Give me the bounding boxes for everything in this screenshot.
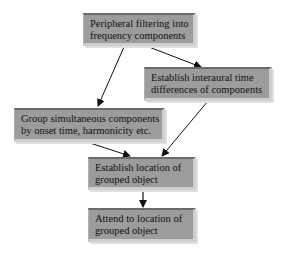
node-text-line: Establish location of [95, 162, 193, 174]
node-text-line: by onset time, harmonicity etc. [21, 125, 162, 137]
node-text-line: Attend to location of [95, 213, 193, 225]
arrow-n1-to-n2 [149, 47, 201, 67]
node-establish-location: Establish location of grouped object [88, 157, 196, 190]
node-interaural-time: Establish interaural time differences of… [144, 67, 272, 101]
node-group-simultaneous: Group simultaneous components by onset t… [14, 108, 165, 142]
node-text-line: Establish interaural time [151, 72, 269, 84]
arrow-n3-to-n4 [90, 143, 130, 156]
node-text-line: grouped object [95, 174, 193, 186]
node-peripheral-filtering: Peripheral filtering into frequency comp… [83, 13, 196, 46]
node-text-line: Peripheral filtering into [90, 18, 193, 30]
node-text-line: grouped object [95, 225, 193, 237]
node-attend-location: Attend to location of grouped object [88, 208, 196, 242]
node-text-line: differences of components [151, 84, 269, 96]
node-text-line: Group simultaneous components [21, 113, 162, 125]
node-text-line: frequency components [90, 30, 193, 42]
arrow-n2-to-n4 [162, 101, 208, 156]
arrow-n1-to-n3 [98, 47, 124, 106]
